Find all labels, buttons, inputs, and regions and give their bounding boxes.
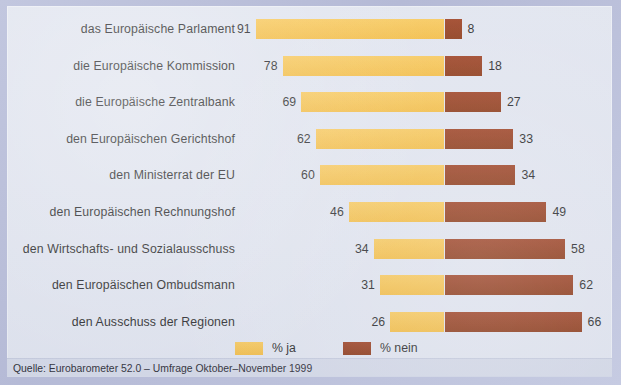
category-label: das Europäische Parlament <box>81 22 235 36</box>
chart-row: den Ministerrat der EU6034 <box>7 160 612 190</box>
chart-row: den Europäischen Rechnungshof4649 <box>7 197 612 227</box>
category-label: den Europäischen Gerichtshof <box>66 132 235 146</box>
value-label-nein: 18 <box>488 59 502 73</box>
value-label-nein: 33 <box>519 132 533 146</box>
bar-nein <box>445 312 582 332</box>
bar-ja <box>390 312 444 332</box>
bar-nein <box>445 129 513 149</box>
value-label-nein: 62 <box>579 278 593 292</box>
source-text: Quelle: Eurobarometer 52.0 – Umfrage Okt… <box>13 363 312 374</box>
chart-row: das Europäische Parlament918 <box>7 14 612 44</box>
bar-ja <box>320 165 444 185</box>
bar-nein <box>445 202 546 222</box>
bar-ja <box>301 92 444 112</box>
value-label-ja: 34 <box>347 242 369 256</box>
category-label: den Wirtschafts- und Sozialausschuss <box>23 242 235 256</box>
value-label-nein: 27 <box>507 95 521 109</box>
value-label-ja: 78 <box>256 59 278 73</box>
legend-swatch-yes-icon <box>235 342 263 355</box>
value-label-nein: 8 <box>468 22 475 36</box>
chart-panel: das Europäische Parlament918die Europäis… <box>7 6 612 376</box>
bar-ja <box>349 202 444 222</box>
bar-nein <box>445 239 565 259</box>
value-label-ja: 69 <box>274 95 296 109</box>
bar-nein <box>445 165 515 185</box>
legend-swatch-nein-icon <box>343 342 371 355</box>
bar-nein <box>445 56 482 76</box>
category-label: den Ministerrat der EU <box>109 168 235 182</box>
legend-item-ja: % ja <box>235 338 296 358</box>
chart-row: die Europäische Kommission7818 <box>7 51 612 81</box>
value-label-ja: 62 <box>289 132 311 146</box>
value-label-nein: 34 <box>521 168 535 182</box>
legend-label-ja: % ja <box>272 341 296 355</box>
chart-row: den Europäischen Ombudsmann3162 <box>7 270 612 300</box>
value-label-ja: 26 <box>363 315 385 329</box>
bar-ja <box>380 275 444 295</box>
value-label-nein: 66 <box>588 315 602 329</box>
bar-ja <box>283 56 444 76</box>
chart-row: den Ausschuss der Regionen2666 <box>7 307 612 337</box>
chart-row: den Europäischen Gerichtshof6233 <box>7 124 612 154</box>
category-label: den Europäischen Rechnungshof <box>50 205 235 219</box>
bar-nein <box>445 275 573 295</box>
value-label-ja: 91 <box>229 22 251 36</box>
chart-row: den Wirtschafts- und Sozialausschuss3458 <box>7 234 612 264</box>
value-label-ja: 31 <box>353 278 375 292</box>
bar-ja <box>374 239 444 259</box>
bar-ja <box>256 19 444 39</box>
chart-frame: das Europäische Parlament918die Europäis… <box>0 0 621 385</box>
category-label: die Europäische Zentralbank <box>75 95 235 109</box>
chart-row: die Europäische Zentralbank6927 <box>7 87 612 117</box>
source-strip: Quelle: Eurobarometer 52.0 – Umfrage Okt… <box>7 358 612 377</box>
value-label-ja: 60 <box>293 168 315 182</box>
legend-label-nein: % nein <box>380 341 418 355</box>
value-label-nein: 49 <box>552 205 566 219</box>
bar-nein <box>445 19 462 39</box>
category-label: den Ausschuss der Regionen <box>72 315 235 329</box>
value-label-nein: 58 <box>571 242 585 256</box>
bar-chart: das Europäische Parlament918die Europäis… <box>7 6 612 336</box>
bar-nein <box>445 92 501 112</box>
chart-legend: % ja % nein <box>7 338 612 358</box>
category-label: die Europäische Kommission <box>73 59 235 73</box>
value-label-ja: 46 <box>322 205 344 219</box>
category-label: den Europäischen Ombudsmann <box>52 278 235 292</box>
bar-ja <box>316 129 444 149</box>
legend-item-nein: % nein <box>343 338 418 358</box>
